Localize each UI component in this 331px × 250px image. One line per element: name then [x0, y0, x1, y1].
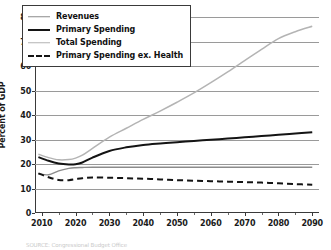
y-axis-tick-label: 40 — [20, 111, 31, 120]
x-axis-tick-mark — [42, 213, 43, 216]
series-line — [38, 173, 312, 185]
x-axis-minor-tick — [126, 213, 127, 215]
x-axis-minor-tick — [262, 213, 263, 215]
x-axis-tick-label: 2010 — [31, 219, 52, 228]
legend-label-primary-spending-ex-health: Primary Spending ex. Health — [56, 51, 183, 60]
x-axis-tick-mark — [211, 213, 212, 216]
legend-item-revenues: Revenues — [28, 10, 183, 23]
y-axis-title: Percent of GDP — [0, 81, 7, 148]
x-axis-tick-mark — [312, 213, 313, 216]
x-axis-minor-tick — [295, 213, 296, 215]
chart-figure: Percent of GDP 01020304050607080 2010202… — [0, 0, 331, 250]
legend-item-primary-spending: Primary Spending — [28, 23, 183, 36]
series-line — [38, 167, 312, 175]
x-axis-tick-label: 2020 — [65, 219, 86, 228]
x-axis-tick-mark — [177, 213, 178, 216]
x-axis-tick-mark — [143, 213, 144, 216]
y-axis-tick-label: 10 — [20, 184, 31, 193]
series-line — [38, 132, 312, 164]
legend-swatch-primary-spending — [28, 25, 50, 35]
x-axis-tick-label: 2050 — [166, 219, 187, 228]
chart-legend: Revenues Primary Spending Total Spending… — [22, 5, 191, 67]
x-axis-tick-mark — [109, 213, 110, 216]
x-axis-tick-label: 2040 — [132, 219, 153, 228]
x-axis-minor-tick — [228, 213, 229, 215]
legend-swatch-revenues — [28, 12, 50, 22]
x-axis-minor-tick — [92, 213, 93, 215]
y-axis-tick-label: 0 — [26, 209, 31, 218]
legend-item-primary-spending-ex-health: Primary Spending ex. Health — [28, 49, 183, 62]
x-axis-tick-label: 2030 — [99, 219, 120, 228]
x-axis-tick-mark — [245, 213, 246, 216]
source-note: SOURCE: Congressional Budget Office — [26, 242, 326, 248]
x-axis-minor-tick — [59, 213, 60, 215]
legend-swatch-total-spending — [28, 38, 50, 48]
legend-swatch-primary-spending-ex-health — [28, 51, 50, 61]
legend-label-total-spending: Total Spending — [56, 38, 122, 47]
x-axis-tick-label: 2060 — [200, 219, 221, 228]
legend-label-revenues: Revenues — [56, 12, 99, 21]
y-axis-tick-label: 50 — [20, 86, 31, 95]
x-axis-tick-label: 2080 — [268, 219, 289, 228]
x-axis-tick-mark — [76, 213, 77, 216]
x-axis-minor-tick — [194, 213, 195, 215]
legend-label-primary-spending: Primary Spending — [56, 25, 135, 34]
y-axis-tick-label: 30 — [20, 135, 31, 144]
x-axis-tick-label: 2070 — [234, 219, 255, 228]
x-axis-tick-label: 2090 — [302, 219, 323, 228]
x-axis-tick-mark — [278, 213, 279, 216]
legend-item-total-spending: Total Spending — [28, 36, 183, 49]
y-axis-tick-mark — [32, 213, 35, 214]
x-axis-minor-tick — [160, 213, 161, 215]
y-axis-tick-label: 20 — [20, 160, 31, 169]
